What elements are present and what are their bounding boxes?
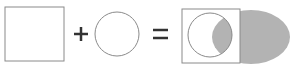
circle-shape — [95, 12, 139, 56]
plus-icon — [74, 27, 88, 41]
diagram-canvas — [0, 0, 291, 69]
square-shape — [5, 7, 64, 61]
equals-icon — [153, 30, 168, 38]
